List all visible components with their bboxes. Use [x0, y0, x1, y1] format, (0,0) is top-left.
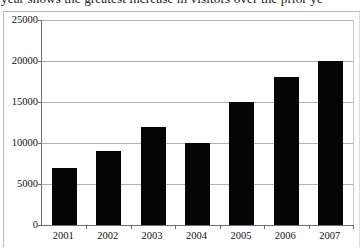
x-axis-tick — [175, 225, 176, 229]
bar-2004 — [185, 143, 210, 225]
bar-2003 — [141, 127, 166, 225]
gridline — [42, 61, 353, 62]
bar-chart: 0500010000150002000025000200120022003200… — [0, 0, 363, 250]
y-axis-label: 10000 — [0, 138, 38, 149]
x-axis-tick — [353, 225, 354, 229]
y-axis-label: 20000 — [0, 56, 38, 67]
y-axis-tick — [38, 20, 42, 21]
x-axis-tick — [86, 225, 87, 229]
x-axis-tick — [131, 225, 132, 229]
y-axis-tick — [38, 61, 42, 62]
x-axis-tick — [220, 225, 221, 229]
clipped-sentence: year shows the greatest increase in visi… — [1, 0, 323, 7]
y-axis-tick — [38, 225, 42, 226]
bar-2002 — [96, 151, 121, 225]
x-axis-label-2007: 2007 — [300, 231, 360, 242]
bar-2001 — [52, 168, 77, 225]
y-axis-label: 15000 — [0, 97, 38, 108]
clipped-header-text: year shows the greatest increase in visi… — [0, 0, 363, 9]
bar-2005 — [229, 102, 254, 225]
y-axis-label: 25000 — [0, 15, 38, 26]
x-axis-tick — [309, 225, 310, 229]
y-axis-tick — [38, 184, 42, 185]
bar-2007 — [318, 61, 343, 225]
y-axis-tick — [38, 143, 42, 144]
y-axis-label: 0 — [0, 220, 38, 231]
x-axis-tick — [264, 225, 265, 229]
gridline — [42, 20, 353, 21]
gridline — [42, 102, 353, 103]
y-axis-label: 5000 — [0, 179, 38, 190]
bar-2006 — [274, 77, 299, 225]
plot-area — [41, 20, 354, 226]
y-axis-tick — [38, 102, 42, 103]
